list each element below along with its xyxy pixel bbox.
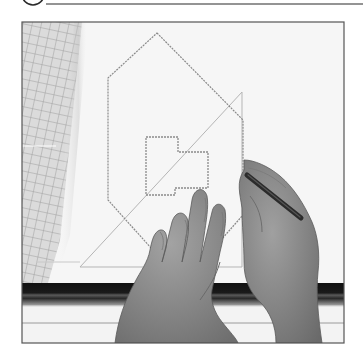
step-number-badge (22, 0, 44, 5)
page (0, 0, 363, 360)
illustration (0, 0, 363, 360)
drafting-figure (22, 22, 344, 343)
step-header (22, 0, 363, 5)
